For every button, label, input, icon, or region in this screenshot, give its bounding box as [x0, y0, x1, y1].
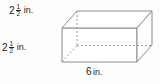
- top-face: [62, 11, 152, 28]
- height-denominator: 2: [16, 11, 22, 17]
- width-unit: in.: [93, 68, 103, 77]
- depth-unit: in.: [17, 43, 27, 52]
- depth-whole-number: 2: [2, 43, 8, 53]
- height-fraction: 1 2: [16, 4, 22, 17]
- prism-figure: 2 1 2 in. 2 1 2 in. 6 in.: [0, 0, 160, 84]
- height-unit: in.: [24, 6, 34, 15]
- depth-denominator: 2: [9, 48, 15, 54]
- height-whole-number: 2: [9, 6, 15, 16]
- height-label: 2 1 2 in.: [9, 4, 33, 17]
- depth-label: 2 1 2 in.: [2, 41, 26, 54]
- width-label: 6 in.: [86, 67, 103, 77]
- depth-fraction: 1 2: [9, 41, 15, 54]
- width-value: 6: [86, 67, 92, 77]
